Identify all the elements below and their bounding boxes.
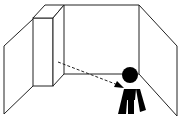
left-wall <box>4 19 33 114</box>
dashed-arrow <box>58 62 124 88</box>
right-wall <box>139 5 177 116</box>
diagram-canvas <box>0 0 182 123</box>
person-icon <box>118 67 146 114</box>
room-diagram: Room corner with a pillar and a person; … <box>0 0 182 123</box>
back-wall <box>64 5 139 74</box>
pillar <box>33 5 64 86</box>
